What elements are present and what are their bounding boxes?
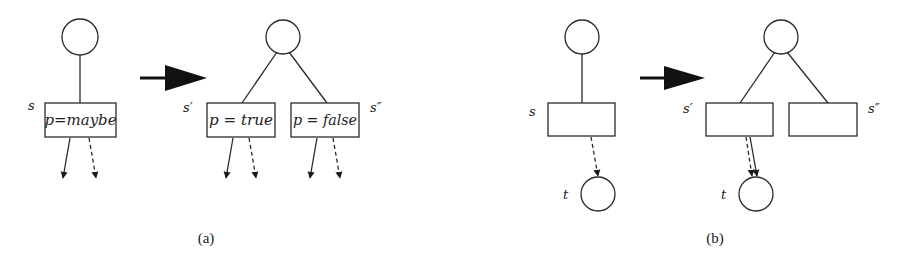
state-label-s: s: [28, 98, 35, 113]
dashed-arrow-icon: [333, 138, 340, 178]
panel-b: s t s′ s″ t (b): [529, 20, 880, 247]
panel-b-after-tree: s′ s″ t: [683, 20, 880, 211]
state-label-s: s: [529, 104, 536, 119]
dashed-arrow-icon: [89, 138, 96, 178]
root-node: [266, 20, 300, 54]
target-label-t: t: [721, 187, 727, 202]
state-label-s-prime: s′: [183, 100, 193, 115]
state-label-s-prime: s′: [683, 101, 693, 116]
solid-arrow-icon: [310, 138, 317, 178]
state-label-s-double-prime: s″: [370, 100, 382, 115]
right-arrow-icon: [140, 65, 207, 91]
dashed-arrow-icon: [591, 137, 598, 176]
diagram-canvas: p=maybe s p = true p = false s′ s″ (a: [0, 0, 919, 265]
root-node: [62, 19, 98, 55]
panel-b-before-tree: s t: [529, 20, 615, 211]
root-node: [764, 20, 798, 54]
state-box-text-false: p = false: [293, 112, 357, 128]
tree-edge-left: [740, 52, 775, 103]
solid-arrow-icon: [63, 138, 70, 178]
panel-a-before-tree: p=maybe s: [28, 19, 117, 178]
target-node-t: [581, 177, 615, 211]
right-arrow-icon: [640, 66, 705, 90]
root-node: [565, 20, 599, 54]
panel-a: p=maybe s p = true p = false s′ s″ (a: [28, 19, 382, 247]
dashed-arrow-icon: [249, 138, 256, 178]
state-box-text-true: p = true: [209, 112, 273, 128]
caption-b: (b): [706, 230, 724, 247]
panel-a-after-tree: p = true p = false s′ s″: [183, 20, 382, 178]
target-label-t: t: [563, 187, 569, 202]
state-label-s-double-prime: s″: [868, 101, 880, 116]
solid-arrow-icon: [226, 138, 233, 178]
state-box-text: p=maybe: [45, 112, 117, 128]
state-box-s: [548, 103, 615, 136]
solid-arrow-icon: [750, 137, 757, 176]
tree-edge-right: [289, 52, 327, 103]
caption-a: (a): [198, 230, 215, 247]
tree-edge-left: [242, 52, 277, 103]
state-box-s-double-prime: [789, 103, 857, 136]
state-box-s-prime: [706, 103, 773, 136]
tree-edge-right: [787, 52, 828, 103]
target-node-t: [739, 177, 773, 211]
